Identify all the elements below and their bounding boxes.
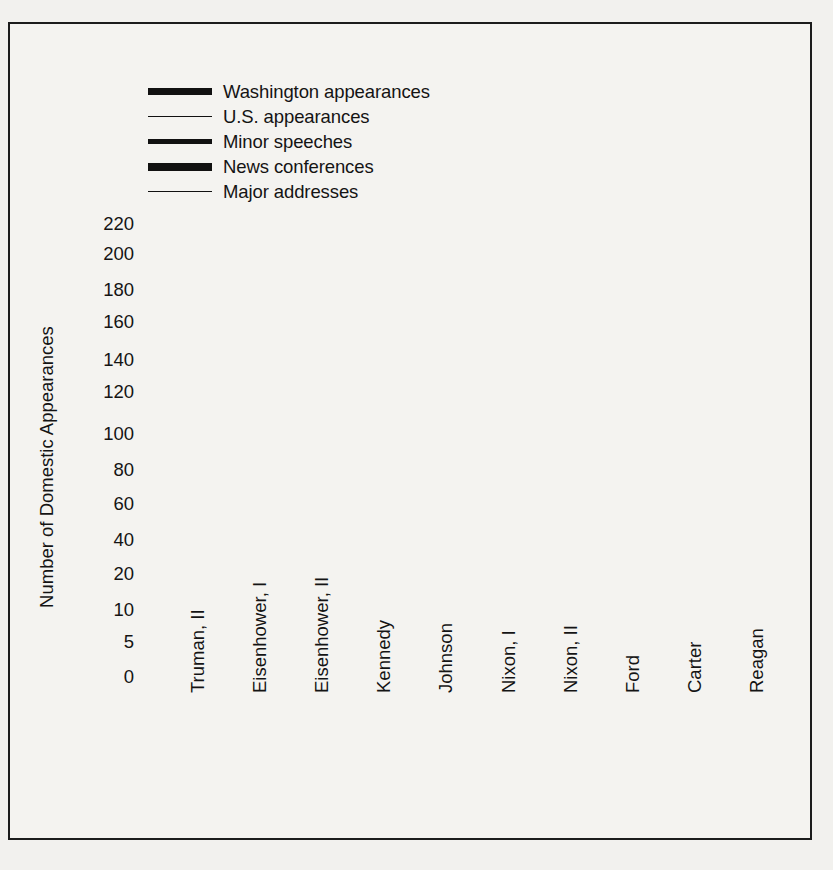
y-tick-label: 5 xyxy=(76,631,134,653)
y-axis-label: Number of Domestic Appearances xyxy=(36,302,58,632)
y-tick-label: 80 xyxy=(76,459,134,481)
legend-item-label: U.S. appearances xyxy=(223,106,370,128)
y-tick-label: 20 xyxy=(76,563,134,585)
y-tick-label: 10 xyxy=(76,599,134,621)
x-tick-label: Ford xyxy=(622,655,644,693)
x-tick-label: Nixon, I xyxy=(498,630,520,693)
hairline-rule-icon xyxy=(148,179,212,204)
legend-item: Minor speeches xyxy=(148,129,568,154)
x-tick-label: Reagan xyxy=(746,628,768,693)
x-tick-label: Eisenhower, II xyxy=(311,577,333,693)
medium-rule-icon xyxy=(148,129,212,154)
legend-item-label: Major addresses xyxy=(223,181,358,203)
legend-item: Washington appearances xyxy=(148,79,568,104)
legend-item-label: News conferences xyxy=(223,156,374,178)
y-tick-label: 0 xyxy=(76,666,134,688)
y-tick-label: 60 xyxy=(76,493,134,515)
x-tick-label: Nixon, II xyxy=(560,625,582,693)
legend-item: Major addresses xyxy=(148,179,568,204)
legend-item-label: Washington appearances xyxy=(223,81,430,103)
y-tick-label: 200 xyxy=(76,243,134,265)
y-tick-label: 160 xyxy=(76,311,134,333)
x-tick-label: Carter xyxy=(684,642,706,693)
figure-frame: Washington appearancesU.S. appearancesMi… xyxy=(8,22,812,840)
extra-thick-rule-icon xyxy=(148,154,212,179)
y-tick-label: 120 xyxy=(76,381,134,403)
x-tick-label: Eisenhower, I xyxy=(249,582,271,693)
x-tick-label: Kennedy xyxy=(373,620,395,693)
thick-rule-icon xyxy=(148,79,212,104)
y-tick-label: 180 xyxy=(76,279,134,301)
x-tick-label: Truman, II xyxy=(187,609,209,693)
x-tick-label: Johnson xyxy=(435,623,457,693)
legend-item: U.S. appearances xyxy=(148,104,568,129)
chart-legend: Washington appearancesU.S. appearancesMi… xyxy=(148,79,568,204)
legend-item: News conferences xyxy=(148,154,568,179)
y-tick-label: 100 xyxy=(76,423,134,445)
y-tick-label: 40 xyxy=(76,529,134,551)
legend-item-label: Minor speeches xyxy=(223,131,352,153)
y-tick-label: 220 xyxy=(76,213,134,235)
thin-rule-icon xyxy=(148,104,212,129)
y-tick-label: 140 xyxy=(76,349,134,371)
